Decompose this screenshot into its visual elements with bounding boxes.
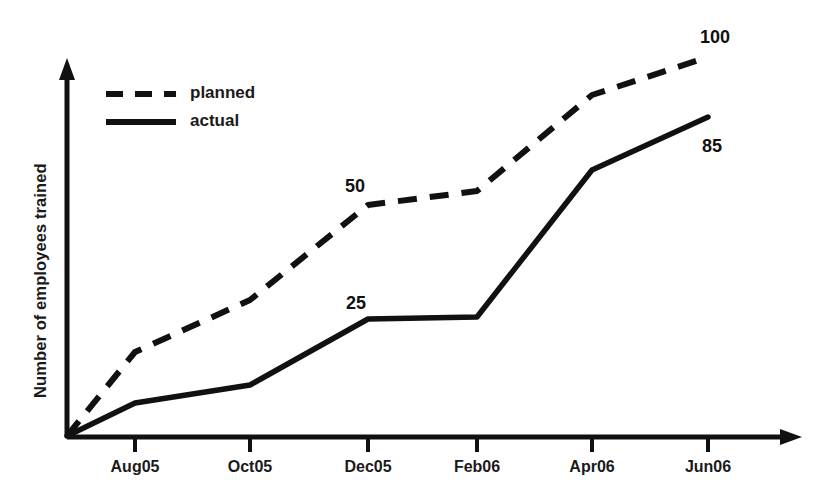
series-line-planned xyxy=(67,57,708,436)
data-label-actual-jun06: 85 xyxy=(702,136,722,157)
chart-plot-area xyxy=(0,0,820,498)
x-tick-label-aug05: Aug05 xyxy=(111,458,160,476)
x-tick-label-dec05: Dec05 xyxy=(344,458,391,476)
legend-label-planned: planned xyxy=(190,83,255,103)
y-axis-title: Number of employees trained xyxy=(31,163,50,398)
data-label-actual-dec05: 25 xyxy=(346,293,366,314)
x-tick-label-oct05: Oct05 xyxy=(228,458,272,476)
y-axis-arrowhead xyxy=(59,58,75,80)
data-label-planned-dec05: 50 xyxy=(345,176,365,197)
legend-label-actual: actual xyxy=(190,111,239,131)
x-tick-label-apr06: Apr06 xyxy=(569,458,614,476)
chart-container: Number of employees trained Aug05 Oct05 … xyxy=(0,0,820,498)
x-tick-label-feb06: Feb06 xyxy=(454,458,500,476)
x-tick-label-jun06: Jun06 xyxy=(685,458,731,476)
x-axis-arrowhead xyxy=(780,429,802,445)
series-line-actual xyxy=(67,117,708,436)
data-label-planned-jun06: 100 xyxy=(700,27,730,48)
